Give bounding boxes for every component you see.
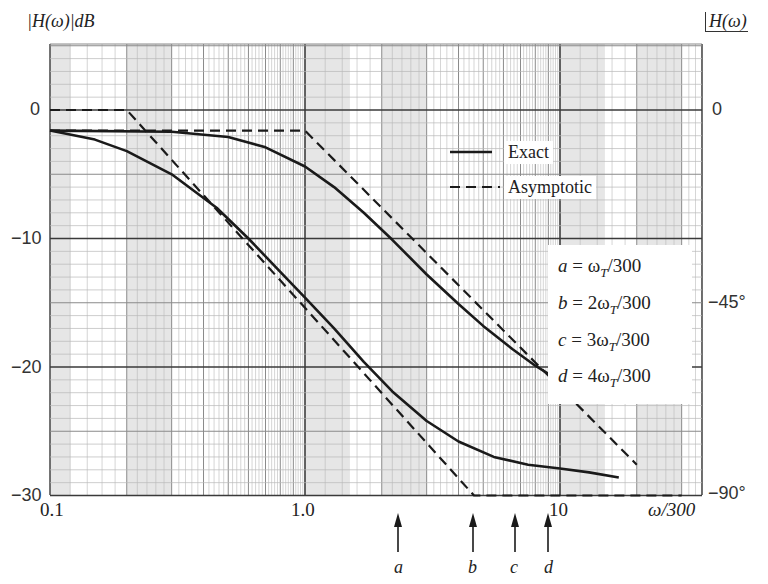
phase-tick-minus90: −90° xyxy=(708,484,746,502)
x-tick-0.1: 0.1 xyxy=(40,500,64,519)
frequency-definitions: a = ωT/300 b = 2ωT/300 c = 3ωT/300 d = 4… xyxy=(548,245,692,404)
phase-tick-0: 0 xyxy=(712,100,722,118)
y-tick-minus10: −10 xyxy=(11,229,42,247)
phase-tick-minus45: −45° xyxy=(708,293,746,311)
x-tick-10: 10 xyxy=(549,500,568,519)
legend-asymptotic-label: Asymptotic xyxy=(508,177,592,197)
arrow-up-icon-a xyxy=(394,513,402,552)
left-axis-title: |H(ω)|dB xyxy=(27,12,95,30)
y-tick-minus20: −20 xyxy=(11,358,42,376)
x-axis-title: ω/300 xyxy=(648,500,695,519)
arrow-up-icon-c xyxy=(511,513,519,552)
definition-c: c = 3ωT/300 xyxy=(558,325,682,362)
legend-exact: Exact xyxy=(504,141,553,164)
y-tick-0: 0 xyxy=(30,100,40,118)
right-axis-title: H(ω) xyxy=(705,12,748,32)
legend-asymptotic: Asymptotic xyxy=(504,176,596,199)
x-tick-1.0: 1.0 xyxy=(291,500,315,519)
marker-label-c: c xyxy=(510,558,518,576)
legend-exact-label: Exact xyxy=(508,142,549,162)
definition-d: d = 4ωT/300 xyxy=(558,361,682,398)
arrow-up-icon-b xyxy=(469,513,477,552)
marker-label-a: a xyxy=(394,558,403,576)
marker-label-b: b xyxy=(468,558,477,576)
definition-a: a = ωT/300 xyxy=(558,251,682,288)
definition-b: b = 2ωT/300 xyxy=(558,288,682,325)
y-tick-minus30: −30 xyxy=(11,486,42,504)
frequency-markers xyxy=(394,513,552,552)
marker-label-d: d xyxy=(544,558,553,576)
